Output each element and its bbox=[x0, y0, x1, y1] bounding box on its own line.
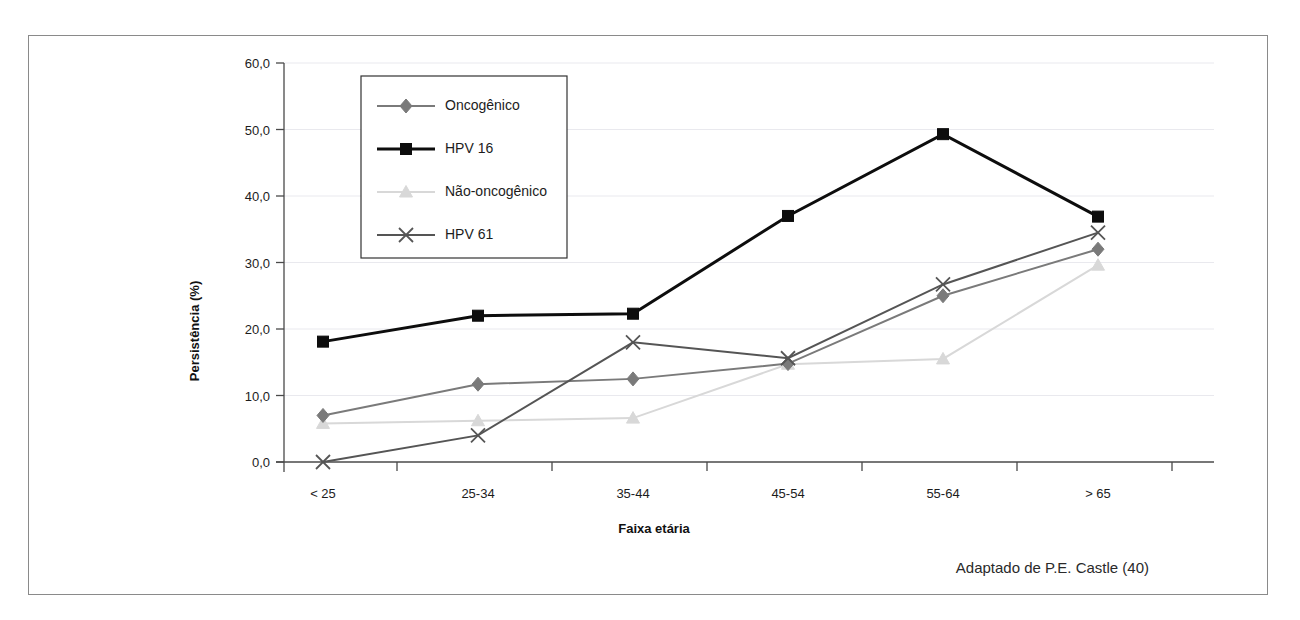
x-category-label: 25-34 bbox=[461, 486, 494, 501]
x-category-label: 45-54 bbox=[771, 486, 804, 501]
source-note: Adaptado de P.E. Castle (40) bbox=[956, 559, 1149, 576]
x-tick-labels-group: < 2525-3435-4445-5455-64> 65 bbox=[310, 486, 1111, 501]
y-axis-title: Persistência (%) bbox=[187, 281, 202, 381]
data-point-marker bbox=[1093, 211, 1104, 222]
data-point-marker bbox=[472, 377, 484, 391]
chart-frame: 0,010,020,030,040,050,060,0 < 2525-3435-… bbox=[28, 35, 1268, 595]
y-tick-label: 30,0 bbox=[245, 256, 270, 271]
legend-label: Oncogênico bbox=[445, 97, 520, 113]
x-category-label: > 65 bbox=[1085, 486, 1111, 501]
data-point-marker bbox=[1092, 259, 1105, 271]
data-point-marker bbox=[1092, 242, 1104, 256]
x-category-label: 35-44 bbox=[616, 486, 649, 501]
data-point-marker bbox=[318, 336, 329, 347]
y-tick-label: 20,0 bbox=[245, 322, 270, 337]
series-3 bbox=[317, 259, 1105, 429]
x-category-label: < 25 bbox=[310, 486, 336, 501]
data-point-marker bbox=[473, 310, 484, 321]
data-point-marker bbox=[1091, 226, 1105, 240]
data-point-marker bbox=[937, 289, 949, 303]
y-tick-label: 0,0 bbox=[252, 455, 270, 470]
legend: OncogênicoHPV 16Não-oncogênicoHPV 61 bbox=[361, 76, 567, 258]
y-tick-label: 60,0 bbox=[245, 56, 270, 71]
data-point-marker bbox=[401, 144, 412, 155]
x-category-label: 55-64 bbox=[926, 486, 959, 501]
data-point-marker bbox=[628, 308, 639, 319]
figure-root: 0,010,020,030,040,050,060,0 < 2525-3435-… bbox=[0, 0, 1300, 620]
y-tick-label: 40,0 bbox=[245, 189, 270, 204]
data-point-marker bbox=[938, 129, 949, 140]
x-axis-title: Faixa etária bbox=[618, 521, 690, 536]
series-line bbox=[323, 233, 1098, 462]
line-chart: 0,010,020,030,040,050,060,0 < 2525-3435-… bbox=[29, 36, 1269, 596]
data-point-marker bbox=[783, 210, 794, 221]
legend-label: HPV 16 bbox=[445, 140, 493, 156]
y-tick-label: 10,0 bbox=[245, 389, 270, 404]
series-line bbox=[323, 265, 1098, 423]
legend-label: Não-oncogênico bbox=[445, 183, 547, 199]
data-point-marker bbox=[627, 372, 639, 386]
y-tick-labels-group: 0,010,020,030,040,050,060,0 bbox=[245, 56, 270, 470]
legend-label: HPV 61 bbox=[445, 226, 493, 242]
data-point-marker bbox=[317, 408, 329, 422]
y-tick-label: 50,0 bbox=[245, 123, 270, 138]
